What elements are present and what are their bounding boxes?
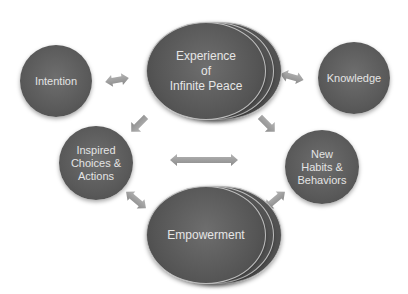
node-label: Intention bbox=[35, 75, 77, 88]
double-arrow-icon bbox=[170, 154, 238, 166]
node-label: of bbox=[170, 64, 243, 79]
node-label: New bbox=[298, 148, 347, 161]
node-ring-front: Empowerment bbox=[146, 186, 266, 284]
node-label: Inspired bbox=[71, 144, 121, 157]
node-experience-of-infinite-peace: Experience of Infinite Peace bbox=[146, 20, 284, 120]
node-label: Experience bbox=[170, 49, 243, 64]
node-label: Choices & bbox=[71, 157, 121, 170]
node-new-habits-behaviors: New Habits & Behaviors bbox=[285, 130, 359, 204]
node-label: Knowledge bbox=[327, 72, 381, 85]
node-label: Empowerment bbox=[167, 229, 244, 242]
node-knowledge: Knowledge bbox=[318, 42, 390, 114]
node-label: Behaviors bbox=[298, 174, 347, 187]
node-label: Actions bbox=[71, 170, 121, 183]
node-ring-front: Experience of Infinite Peace bbox=[146, 22, 266, 120]
node-label: Infinite Peace bbox=[170, 79, 243, 94]
node-empowerment: Empowerment bbox=[146, 184, 284, 284]
node-intention: Intention bbox=[20, 45, 92, 117]
node-label: Habits & bbox=[298, 161, 347, 174]
double-arrow-icon bbox=[104, 72, 130, 88]
node-inspired-choices-actions: Inspired Choices & Actions bbox=[59, 126, 133, 200]
